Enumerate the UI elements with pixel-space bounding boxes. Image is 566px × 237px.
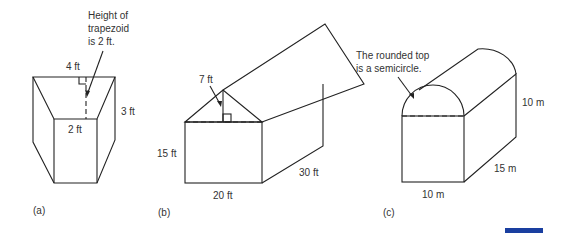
annotation-a-line3: is 2 ft.: [88, 36, 115, 47]
label-width-10m: 10 m: [422, 189, 444, 200]
front-face: [402, 116, 464, 182]
front-wall: [185, 122, 262, 183]
label-bottom-2ft: 2 ft: [68, 124, 82, 135]
annotation-a-line1: Height of: [88, 10, 128, 21]
figure-c: The rounded top is a semicircle. 10 m 10…: [356, 49, 544, 218]
figure-b: 7 ft 15 ft 20 ft 30 ft (b): [157, 24, 364, 218]
arrow-head-icon: [217, 101, 222, 107]
semicircle-top: [419, 49, 516, 90]
label-height-10m: 10 m: [522, 97, 544, 108]
trapezoid-top-face: [33, 77, 115, 119]
label-top-4ft: 4 ft: [66, 61, 80, 72]
figures-canvas: Height of trapezoid is 2 ft. 4 ft 2 ft 3…: [0, 0, 566, 237]
label-15ft: 15 ft: [157, 148, 177, 159]
annotation-arrow: [398, 77, 412, 96]
right-angle-marker: [79, 77, 86, 84]
caption-a: (a): [33, 205, 45, 216]
label-length-15m: 15 m: [494, 163, 516, 174]
figure-a: Height of trapezoid is 2 ft. 4 ft 2 ft 3…: [33, 10, 135, 216]
accent-bar: [505, 228, 543, 233]
label-20ft: 20 ft: [213, 190, 233, 201]
caption-c: (c): [383, 207, 395, 218]
semicircle-front: [402, 85, 464, 116]
label-30ft: 30 ft: [299, 167, 319, 178]
annotation-c-line2: is a semicircle.: [356, 63, 422, 74]
label-7ft: 7 ft: [199, 74, 213, 85]
right-angle-marker: [223, 114, 231, 122]
annotation-a-line2: trapezoid: [88, 23, 129, 34]
annotation-c-line1: The rounded top: [356, 50, 430, 61]
annotation-arrow: [87, 51, 103, 95]
caption-b: (b): [158, 207, 170, 218]
label-depth-3ft: 3 ft: [121, 106, 135, 117]
